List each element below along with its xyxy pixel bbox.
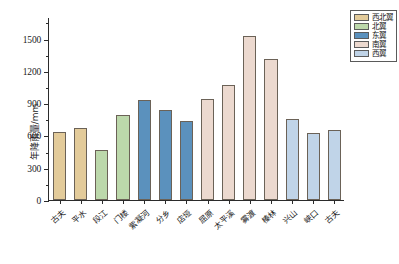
x-axis-tick xyxy=(186,200,187,204)
x-axis-tick xyxy=(229,200,230,204)
legend-label: 西北翼 xyxy=(372,14,393,22)
bar xyxy=(95,150,108,200)
x-axis-tick-label: 古夫 xyxy=(323,207,342,226)
x-axis-tick-label: 峡口 xyxy=(301,207,320,226)
y-axis-tick-label: 900 xyxy=(27,99,41,109)
legend-label: 北翼 xyxy=(372,23,386,31)
x-axis-tick xyxy=(334,200,335,204)
y-axis-tick xyxy=(44,72,49,73)
y-axis-tick xyxy=(44,201,49,202)
bar xyxy=(307,133,320,200)
y-axis-minor-tick xyxy=(46,56,49,57)
x-axis-tick-label: 太平溪 xyxy=(211,207,236,231)
legend-label: 东翼 xyxy=(372,32,386,40)
x-axis-tick-label: 店垭 xyxy=(175,207,194,226)
x-axis-tick-label: 平水 xyxy=(69,207,88,226)
legend-item: 西翼 xyxy=(354,50,393,59)
legend-label: 西翼 xyxy=(372,50,386,58)
legend-item: 东翼 xyxy=(354,32,393,41)
x-axis-tick-label: 榛林 xyxy=(259,207,278,226)
x-axis-tick xyxy=(144,200,145,204)
x-axis-tick-label: 段江 xyxy=(90,207,109,226)
bar xyxy=(328,130,341,200)
x-axis-tick xyxy=(313,200,314,204)
legend-swatch xyxy=(354,23,369,30)
x-axis-tick xyxy=(60,200,61,204)
legend-swatch xyxy=(354,32,369,39)
legend-item: 北翼 xyxy=(354,23,393,32)
y-axis-minor-tick xyxy=(46,185,49,186)
x-axis-tick-label: 分乡 xyxy=(153,207,172,226)
bar xyxy=(222,85,235,200)
y-axis-tick-label: 1500 xyxy=(23,35,41,45)
legend-label: 南翼 xyxy=(372,41,386,49)
x-axis-tick xyxy=(208,200,209,204)
x-axis-tick-label: 雾渡 xyxy=(238,207,257,226)
x-axis-tick xyxy=(292,200,293,204)
y-axis-tick xyxy=(44,169,49,170)
x-axis-tick xyxy=(102,200,103,204)
y-axis-tick-label: 0 xyxy=(36,196,41,206)
y-axis-tick xyxy=(44,136,49,137)
legend-swatch xyxy=(354,41,369,48)
x-axis-tick xyxy=(81,200,82,204)
bar xyxy=(116,115,129,200)
y-axis-tick xyxy=(44,104,49,105)
x-axis-tick xyxy=(165,200,166,204)
bar xyxy=(264,59,277,200)
y-axis-tick-label: 300 xyxy=(27,164,41,174)
legend-item: 南翼 xyxy=(354,41,393,50)
bar xyxy=(201,99,214,200)
legend-item: 西北翼 xyxy=(354,14,393,23)
x-axis-tick-label: 古夫 xyxy=(48,207,67,226)
y-axis-minor-tick xyxy=(46,88,49,89)
bar xyxy=(159,110,172,200)
plot-area: 030060090012001500古夫平水段江门楼紫凝河分乡店垭屈原太平溪雾渡… xyxy=(48,18,344,201)
x-axis-tick xyxy=(250,200,251,204)
legend-swatch xyxy=(354,50,369,57)
bar xyxy=(138,100,151,200)
y-axis-tick-label: 1200 xyxy=(23,67,41,77)
x-axis-tick xyxy=(123,200,124,204)
y-axis-minor-tick xyxy=(46,153,49,154)
bar xyxy=(243,36,256,200)
chart-legend: 西北翼北翼东翼南翼西翼 xyxy=(350,10,397,62)
x-axis-tick xyxy=(271,200,272,204)
x-axis-tick-label: 兴山 xyxy=(280,207,299,226)
bar xyxy=(53,132,66,200)
bar xyxy=(286,119,299,200)
y-axis-minor-tick xyxy=(46,23,49,24)
legend-swatch xyxy=(354,14,369,21)
y-axis-tick-label: 600 xyxy=(27,131,41,141)
bar-chart: 年降雨量/mm 030060090012001500古夫平水段江门楼紫凝河分乡店… xyxy=(0,0,399,264)
y-axis-tick xyxy=(44,40,49,41)
y-axis-minor-tick xyxy=(46,120,49,121)
bar xyxy=(180,121,193,200)
bar xyxy=(74,128,87,200)
x-axis-tick-label: 紫凝河 xyxy=(126,207,151,231)
